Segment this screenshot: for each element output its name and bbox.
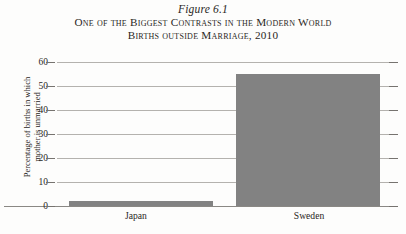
y-axis-title: Percentage of births in which mother is … (0, 0, 20, 52)
y-tick-mark-right-60 (389, 62, 398, 63)
category-label-sweden: Sweden (232, 210, 386, 221)
y-tick-mark-right-50 (389, 86, 398, 87)
y-tick-mark-left-60 (46, 62, 55, 63)
title-block: Figure 6.1 One of the Biggest Contrasts … (0, 0, 406, 42)
y-tick-label-20: 20 (26, 154, 48, 164)
category-label-japan: Japan (60, 210, 212, 221)
x-axis-baseline (4, 206, 398, 207)
plot-area (57, 62, 392, 206)
y-tick-mark-left-40 (46, 110, 55, 111)
y-tick-mark-left-10 (46, 182, 55, 183)
y-tick-mark-right-20 (389, 158, 398, 159)
y-tick-label-50: 50 (26, 82, 48, 92)
figure-page: Figure 6.1 One of the Biggest Contrasts … (0, 0, 406, 234)
y-tick-label-10: 10 (26, 178, 48, 188)
y-tick-mark-right-10 (389, 182, 398, 183)
figure-caption-line-2: Births outside Marriage, 2010 (0, 29, 406, 42)
y-tick-mark-left-20 (46, 158, 55, 159)
y-tick-label-60: 60 (26, 58, 48, 68)
bar-sweden[interactable] (236, 74, 380, 206)
y-tick-label-40: 40 (26, 106, 48, 116)
figure-caption-line-1: One of the Biggest Contrasts in the Mode… (0, 16, 406, 29)
y-tick-label-30: 30 (26, 130, 48, 140)
y-tick-mark-right-30 (389, 134, 398, 135)
y-tick-mark-right-40 (389, 110, 398, 111)
y-tick-mark-left-0 (46, 206, 55, 207)
figure-number: Figure 6.1 (0, 0, 406, 16)
gridline-60 (57, 62, 392, 63)
bar-chart: Percentage of births in which mother is … (0, 46, 406, 234)
y-tick-mark-right-0 (389, 206, 398, 207)
y-tick-label-0: 0 (26, 202, 48, 212)
y-tick-mark-left-30 (46, 134, 55, 135)
y-tick-mark-left-50 (46, 86, 55, 87)
